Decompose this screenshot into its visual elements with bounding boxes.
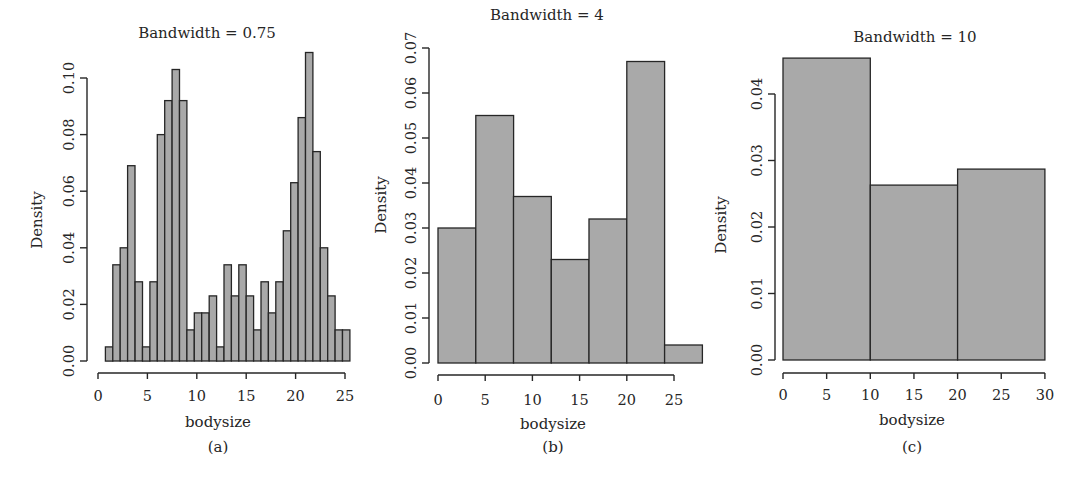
x-tick-label: 20: [948, 387, 966, 403]
panel-c-caption: (c): [902, 438, 922, 456]
x-tick-label: 5: [481, 392, 490, 408]
histogram-bar: [476, 116, 514, 364]
x-tick-label: 0: [93, 388, 102, 404]
histogram-bar: [246, 296, 253, 361]
panel-c-x-axis: 051015202530: [778, 373, 1054, 403]
y-tick-label: 0.01: [403, 302, 419, 334]
panel-a-x-axis: 0510152025: [93, 373, 354, 404]
histogram-bar: [958, 169, 1045, 360]
histogram-bar: [113, 265, 120, 361]
histogram-bar: [180, 101, 187, 361]
histogram-figure: Bandwidth = 0.75 0.000.020.040.060.080.1…: [0, 0, 1077, 487]
panel-a-title: Bandwidth = 0.75: [138, 24, 276, 42]
histogram-bar: [202, 313, 209, 361]
x-tick-label: 30: [1036, 387, 1054, 403]
y-tick-label: 0.05: [403, 122, 419, 154]
histogram-bar: [306, 53, 313, 362]
x-tick-label: 5: [143, 388, 152, 404]
histogram-bar: [217, 347, 224, 361]
panel-b-y-axis: 0.000.010.020.030.040.050.060.07: [403, 32, 429, 379]
y-tick-label: 0.03: [749, 144, 765, 176]
y-tick-label: 0.04: [749, 78, 765, 110]
histogram-bar: [291, 183, 298, 361]
histogram-bar: [135, 282, 142, 361]
x-tick-label: 15: [237, 388, 255, 404]
panel-c-xlabel: bodysize: [879, 411, 945, 429]
y-tick-label: 0.06: [403, 77, 419, 109]
x-tick-label: 10: [523, 392, 541, 408]
x-tick-label: 15: [905, 387, 923, 403]
histogram-bar: [209, 296, 216, 361]
y-tick-label: 0.02: [403, 257, 419, 289]
x-tick-label: 20: [286, 388, 304, 404]
panel-c-ylabel: Density: [712, 196, 730, 254]
panel-b-xlabel: bodysize: [520, 415, 586, 433]
histogram-bar: [438, 228, 476, 363]
y-tick-label: 0.04: [403, 167, 419, 199]
panel-c-title: Bandwidth = 10: [853, 28, 976, 46]
histogram-bar: [783, 58, 870, 360]
x-tick-label: 5: [822, 387, 831, 403]
panel-b-ylabel: Density: [372, 176, 390, 234]
y-tick-label: 0.04: [61, 232, 77, 264]
x-tick-label: 20: [618, 392, 636, 408]
histogram-bar: [320, 248, 327, 361]
x-tick-label: 25: [992, 387, 1010, 403]
panel-b: Bandwidth = 4 0.000.010.020.030.040.050.…: [372, 6, 702, 456]
histogram-bar: [627, 62, 665, 364]
panel-b-x-axis: 0510152025: [433, 375, 683, 408]
y-tick-label: 0.06: [61, 175, 77, 207]
panel-a-ylabel: Density: [28, 191, 46, 249]
histogram-bar: [276, 282, 283, 361]
histogram-bar: [143, 347, 150, 361]
histogram-bar: [157, 135, 164, 361]
y-tick-label: 0.07: [403, 32, 419, 64]
histogram-bar: [665, 345, 703, 363]
histogram-bar: [328, 296, 335, 361]
histogram-bar: [589, 219, 627, 363]
panel-a-caption: (a): [208, 438, 229, 456]
histogram-bar: [165, 101, 172, 361]
panel-c-y-axis: 0.000.010.020.030.04: [749, 78, 775, 376]
histogram-bar: [298, 118, 305, 361]
histogram-bar: [870, 185, 957, 360]
x-tick-label: 10: [861, 387, 879, 403]
histogram-bar: [172, 70, 179, 362]
histogram-bar: [335, 330, 342, 361]
histogram-bar: [120, 248, 127, 361]
y-tick-label: 0.02: [749, 211, 765, 243]
panel-a-y-axis: 0.000.020.040.060.080.10: [61, 62, 87, 377]
histogram-bar: [128, 166, 135, 361]
histogram-bar: [551, 260, 589, 364]
histogram-bar: [313, 152, 320, 361]
panel-c-bars: [783, 58, 1045, 360]
y-tick-label: 0.00: [403, 347, 419, 379]
histogram-bar: [187, 330, 194, 361]
histogram-bar: [283, 231, 290, 361]
x-tick-label: 0: [433, 392, 442, 408]
histogram-bar: [239, 265, 246, 361]
panel-a-bars: [105, 53, 350, 362]
panel-b-caption: (b): [542, 438, 563, 456]
y-tick-label: 0.02: [61, 288, 77, 320]
y-tick-label: 0.10: [61, 62, 77, 94]
histogram-bar: [261, 282, 268, 361]
y-tick-label: 0.01: [749, 277, 765, 309]
x-tick-label: 0: [778, 387, 787, 403]
histogram-bar: [514, 197, 552, 364]
y-tick-label: 0.00: [61, 345, 77, 377]
x-tick-label: 15: [570, 392, 588, 408]
histogram-bar: [254, 330, 261, 361]
x-tick-label: 25: [665, 392, 683, 408]
histogram-bar: [224, 265, 231, 361]
panel-a-xlabel: bodysize: [185, 413, 251, 431]
panel-c: Bandwidth = 10 0.000.010.020.030.04 0510…: [712, 28, 1054, 456]
histogram-bar: [231, 296, 238, 361]
y-tick-label: 0.03: [403, 212, 419, 244]
histogram-bar: [343, 330, 350, 361]
y-tick-label: 0.08: [61, 118, 77, 150]
histogram-bar: [194, 313, 201, 361]
histogram-bar: [268, 313, 275, 361]
histogram-bar: [105, 347, 112, 361]
panel-b-bars: [438, 62, 702, 364]
